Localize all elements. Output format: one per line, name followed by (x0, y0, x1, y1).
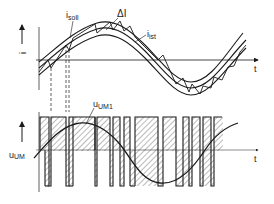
top-t-label: t (254, 64, 257, 74)
bottom-t-label: t (254, 154, 257, 164)
upper-band-curve (39, 22, 243, 82)
i-ist-label: iist (147, 29, 156, 40)
top-plot: i t isoll ΔI iist (18, 8, 258, 112)
i-soll-label: isoll (66, 10, 79, 21)
u-um1-label: uUM1 (93, 99, 113, 110)
delta-i-label: ΔI (117, 8, 126, 19)
actual-current-zigzag (39, 21, 246, 94)
u-um-axis-label: uUM (9, 150, 25, 160)
bottom-plot: uUM (9, 99, 258, 192)
i-axis-label: i (18, 52, 28, 54)
hysteresis-diagram: i t isoll ΔI iist (0, 0, 274, 204)
